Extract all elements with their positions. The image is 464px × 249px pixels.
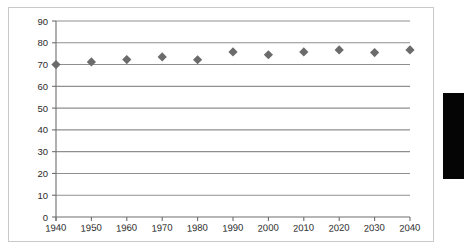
- figure-frame: 0102030405060708090 19401950196019701980…: [8, 7, 434, 242]
- y-tick-label-60: 60: [37, 81, 48, 92]
- x-tick-label-1960: 1960: [116, 221, 138, 233]
- y-tick-label-50: 50: [37, 103, 48, 114]
- x-tick-label-2040: 2040: [399, 221, 421, 233]
- x-tick-label-2020: 2020: [328, 221, 350, 233]
- y-tick-label-0: 0: [43, 212, 48, 223]
- y-tick-label-90: 90: [37, 16, 48, 27]
- data-point-1970: [158, 52, 167, 61]
- x-tick-label-1980: 1980: [186, 221, 208, 233]
- y-tick-label-80: 80: [37, 37, 48, 48]
- x-tick-label-2030: 2030: [363, 221, 385, 233]
- data-point-2040: [405, 45, 414, 54]
- data-point-2030: [370, 48, 379, 57]
- gridlines-group: [56, 21, 410, 195]
- x-tick-label-1970: 1970: [151, 221, 173, 233]
- data-point-1950: [87, 57, 96, 66]
- data-point-1940: [51, 60, 60, 69]
- x-tick-label-1990: 1990: [222, 221, 244, 233]
- data-point-2020: [335, 45, 344, 54]
- chart-scatter-plot: 0102030405060708090 19401950196019701980…: [9, 8, 435, 243]
- x-tick-label-2000: 2000: [257, 221, 279, 233]
- data-point-2000: [264, 50, 273, 59]
- x-tick-label-1940: 1940: [45, 221, 67, 233]
- data-point-2010: [299, 47, 308, 56]
- chart-canvas: 0102030405060708090 19401950196019701980…: [9, 8, 435, 243]
- data-point-1980: [193, 55, 202, 64]
- x-tick-labels-group: 1940195019601970198019902000201020202030…: [45, 221, 421, 233]
- y-tick-label-10: 10: [37, 190, 48, 201]
- x-tick-label-1950: 1950: [80, 221, 102, 233]
- x-tick-label-2010: 2010: [293, 221, 315, 233]
- y-tick-label-30: 30: [37, 146, 48, 157]
- page-edge-black-tab: [443, 93, 464, 179]
- y-tick-label-20: 20: [37, 168, 48, 179]
- y-tick-label-40: 40: [37, 124, 48, 135]
- data-point-1960: [122, 55, 131, 64]
- data-markers-group: [51, 45, 414, 69]
- y-tick-label-70: 70: [37, 59, 48, 70]
- x-tick-marks-group: [56, 217, 410, 221]
- page-root: 0102030405060708090 19401950196019701980…: [0, 0, 464, 249]
- y-tick-labels-group: 0102030405060708090: [37, 16, 48, 223]
- data-point-1990: [228, 47, 237, 56]
